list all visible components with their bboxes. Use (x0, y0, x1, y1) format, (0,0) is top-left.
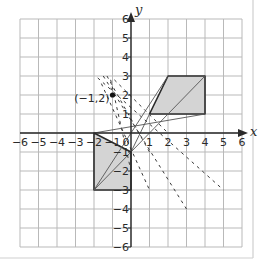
x-tick-label: 6 (239, 136, 246, 149)
y-tick-label: −5 (113, 222, 129, 235)
y-tick-label: 5 (122, 32, 129, 45)
y-axis-label: y (134, 2, 143, 17)
x-tick-label: −3 (67, 136, 83, 149)
x-tick-label: 1 (146, 136, 153, 149)
y-tick-label: 2 (122, 89, 129, 102)
y-tick-label: −2 (113, 165, 129, 178)
y-tick-label: −3 (113, 184, 129, 197)
y-tick-label: 4 (122, 51, 129, 64)
coordinate-grid: xy −6−5−4−3−2−10123456654321−1−2−3−4−5−6… (0, 0, 258, 264)
center-point-dot (110, 92, 115, 97)
y-tick-label: −4 (113, 203, 129, 216)
y-tick-label: 1 (122, 108, 129, 121)
y-tick-label: −1 (113, 146, 129, 159)
x-tick-label: 4 (202, 136, 209, 149)
x-axis-label: x (250, 124, 258, 139)
x-tick-label: 3 (183, 136, 190, 149)
x-tick-label: −4 (49, 136, 65, 149)
x-tick-label: 2 (165, 136, 172, 149)
x-tick-label: −6 (12, 136, 28, 149)
x-tick-label: −5 (30, 136, 46, 149)
y-tick-label: −6 (113, 241, 129, 254)
y-tick-label: 6 (122, 13, 129, 26)
diagram-canvas: xy −6−5−4−3−2−10123456654321−1−2−3−4−5−6… (0, 0, 258, 264)
x-tick-label: 5 (220, 136, 227, 149)
y-tick-label: 3 (122, 70, 129, 83)
center-point-label: (−1,2) (74, 92, 109, 105)
x-tick-label: −2 (86, 136, 102, 149)
center-of-enlargement: (−1,2) (74, 92, 115, 105)
